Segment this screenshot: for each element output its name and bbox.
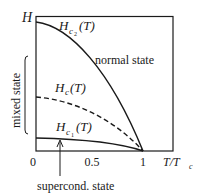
- svg-text:T/T: T/T: [163, 155, 181, 169]
- x-axis-label: T/T c: [163, 155, 193, 171]
- hc1-curve: [36, 138, 143, 151]
- svg-text:2: 2: [74, 31, 77, 37]
- hc1-label: H c 1 (T): [55, 119, 92, 138]
- svg-text:H: H: [58, 18, 69, 33]
- svg-text:(T): (T): [79, 18, 95, 33]
- svg-text:(T): (T): [76, 119, 92, 134]
- normal-state-label: normal state: [95, 53, 154, 67]
- svg-text:(T): (T): [70, 80, 86, 95]
- svg-text:c: c: [65, 87, 69, 97]
- phase-diagram: H H c 2 (T) normal state H c (T) H c 1 (…: [0, 0, 199, 194]
- svg-text:c: c: [69, 26, 73, 36]
- x-tick-1: 1: [140, 155, 146, 169]
- mixed-state-label: mixed state: [9, 73, 23, 128]
- svg-text:H: H: [54, 80, 65, 95]
- hc2-label: H c 2 (T): [58, 18, 95, 37]
- x-tick-0: 0: [30, 155, 36, 169]
- svg-text:H: H: [55, 119, 66, 134]
- svg-text:c: c: [66, 127, 70, 137]
- svg-text:1: 1: [71, 132, 74, 138]
- x-tick-0-5: 0.5: [85, 155, 100, 169]
- hc-label: H c (T): [54, 80, 86, 97]
- y-axis-label: H: [21, 10, 33, 25]
- mixed-state-bracket: [25, 56, 28, 134]
- svg-text:c: c: [189, 162, 193, 171]
- supercond-state-label: supercond. state: [37, 179, 114, 193]
